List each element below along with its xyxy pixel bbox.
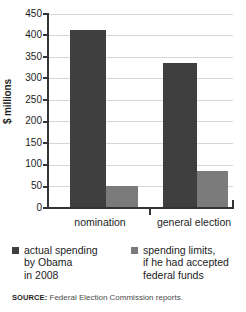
y-tick-label-450: 450 <box>14 9 42 19</box>
source-text: Federal Election Commission reports. <box>50 293 183 302</box>
y-axis-tick-labels: 450 400 350 300 250 200 150 100 50 0 <box>8 0 42 240</box>
y-tick-label-50: 50 <box>14 181 42 191</box>
y-tick-label-350: 350 <box>14 52 42 62</box>
source-note: SOURCE: Federal Election Commission repo… <box>12 293 240 303</box>
bar-nomination-spending-limit <box>106 186 138 208</box>
legend-item-actual-spending: actual spending by Obama in 2008 <box>12 244 132 281</box>
legend-swatch-icon-dark <box>12 247 19 254</box>
x-axis-right-tick <box>232 200 234 209</box>
legend-label-line-3: federal funds <box>143 269 204 281</box>
legend-label-line-1: spending limits, <box>143 244 215 256</box>
y-tick-label-200: 200 <box>14 116 42 126</box>
y-axis-line <box>47 13 49 209</box>
legend-label-line-1: actual spending <box>24 244 98 256</box>
bar-nomination-actual-spending <box>70 30 106 208</box>
source-label: SOURCE: <box>12 293 47 302</box>
y-tick-label-300: 300 <box>14 73 42 83</box>
legend-swatch-icon-light <box>131 247 138 254</box>
legend-label-line-2: if he had accepted <box>143 256 229 268</box>
bar-general-election-spending-limit <box>197 171 228 208</box>
legend-label-actual-spending: actual spending by Obama in 2008 <box>24 244 98 281</box>
bar-chart: $ millions 450 400 350 300 250 200 150 1… <box>0 0 246 240</box>
chart-legend: actual spending by Obama in 2008 spendin… <box>0 244 246 288</box>
gridline-450 <box>49 14 233 15</box>
y-tick-label-400: 400 <box>14 30 42 40</box>
y-tick-label-0: 0 <box>14 203 42 213</box>
x-axis-group-divider-tick <box>149 208 151 215</box>
y-tick-label-150: 150 <box>14 138 42 148</box>
legend-label-line-2: by Obama <box>24 256 72 268</box>
y-tick-label-250: 250 <box>14 95 42 105</box>
legend-label-spending-limits: spending limits, if he had accepted fede… <box>143 244 229 281</box>
plot-area <box>49 14 233 208</box>
legend-item-spending-limits: spending limits, if he had accepted fede… <box>131 244 245 281</box>
x-axis-line <box>47 207 234 209</box>
x-category-label-general-election: general election <box>148 216 240 228</box>
legend-label-line-3: in 2008 <box>24 269 58 281</box>
y-tick-label-100: 100 <box>14 159 42 169</box>
bar-general-election-actual-spending <box>163 63 197 208</box>
x-category-label-nomination: nomination <box>52 216 148 228</box>
